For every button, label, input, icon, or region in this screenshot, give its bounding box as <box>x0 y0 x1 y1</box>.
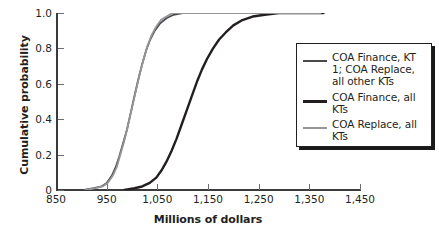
y-tick-label: 0.2 <box>0 150 52 160</box>
chart-figure: Cumulative probability 00.20.40.60.81.0 … <box>0 0 439 234</box>
y-tick-label-text: 1.0 <box>16 8 52 18</box>
legend-line-swatch <box>303 55 327 65</box>
legend-item[interactable]: COA Replace, all KTs <box>303 118 426 142</box>
y-tick-label: 1.0 <box>0 8 52 18</box>
legend-line-swatch <box>303 95 327 105</box>
chart-legend: COA Finance, KT 1; COA Replace, all othe… <box>296 43 432 147</box>
y-tick-label-text: 0.6 <box>16 79 52 89</box>
legend-item-label: COA Finance, all KTs <box>332 91 426 115</box>
legend-item-label: COA Finance, KT 1; COA Replace, all othe… <box>332 51 426 88</box>
x-axis-title: Millions of dollars <box>56 213 360 226</box>
y-tick-label-text: 0.4 <box>16 114 52 124</box>
legend-item-label: COA Replace, all KTs <box>332 118 426 142</box>
y-tick-label: 0.6 <box>0 79 52 89</box>
y-axis-title: Cumulative probability <box>16 10 34 200</box>
y-tick-label: 0.8 <box>0 43 52 53</box>
y-tick-label-text: 0.2 <box>16 150 52 160</box>
legend-item[interactable]: COA Finance, KT 1; COA Replace, all othe… <box>303 51 426 88</box>
y-tick-label: 0.4 <box>0 114 52 124</box>
y-tick-label-text: 0.8 <box>16 43 52 53</box>
y-tick-mark <box>58 190 64 191</box>
legend-item[interactable]: COA Finance, all KTs <box>303 91 426 115</box>
chart-line-series <box>84 13 322 190</box>
x-tick-label: 1,450 <box>330 193 390 205</box>
chart-line-series <box>124 13 323 190</box>
x-tick-mark <box>360 184 361 190</box>
chart-line-series <box>85 13 320 190</box>
legend-line-swatch <box>303 122 327 132</box>
